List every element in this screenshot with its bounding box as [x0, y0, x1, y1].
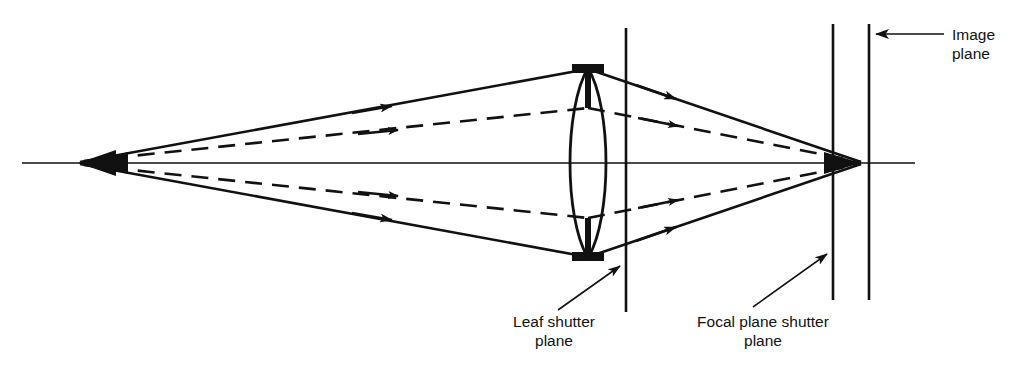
focal-plane-shutter-plane-label-line2: plane	[744, 332, 782, 349]
lens-stem-top	[585, 70, 591, 108]
image-plane-label-line2: plane	[952, 45, 990, 62]
lens-stem-bottom	[585, 218, 591, 256]
leaf-shutter-plane-label-line2: plane	[535, 332, 573, 349]
arrowhead-lower-solid-in	[352, 213, 392, 220]
leaf-shutter-plane-leader	[558, 266, 620, 310]
arrowhead-upper-solid-out	[636, 85, 676, 99]
focal-plane-shutter-plane-label-line1: Focal plane shutter	[697, 313, 829, 330]
ray-lower-solid-incoming	[80, 164, 588, 257]
optical-ray-diagram-figure: Image plane Leaf shutter plane Focal pla…	[0, 0, 1013, 374]
arrowhead-upper-solid-in	[352, 106, 392, 113]
optics-diagram-canvas: Image plane Leaf shutter plane Focal pla…	[0, 0, 1013, 374]
ray-upper-solid-incoming	[80, 69, 588, 162]
arrowhead-lower-solid-out	[636, 227, 676, 241]
leaf-shutter-plane-label-line1: Leaf shutter	[513, 313, 595, 330]
focal-plane-shutter-plane-leader	[753, 254, 827, 307]
image-plane-label-line1: Image	[952, 26, 995, 43]
arrowhead-upper-dashed-out	[638, 118, 678, 126]
arrowhead-lower-dashed-out	[638, 200, 678, 208]
